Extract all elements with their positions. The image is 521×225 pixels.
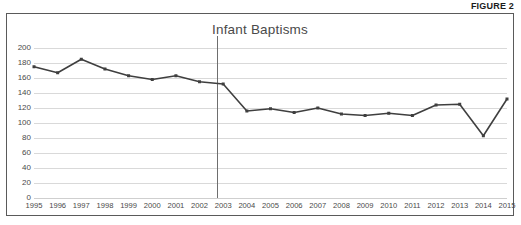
- data-point: [56, 71, 59, 74]
- series-path: [34, 59, 507, 136]
- data-point: [127, 74, 130, 77]
- y-axis-tick-label: 60: [7, 149, 31, 157]
- data-point: [174, 74, 177, 77]
- data-point: [458, 103, 461, 106]
- data-point: [245, 110, 248, 113]
- y-axis-tick-label: 180: [7, 59, 31, 67]
- y-axis-tick-label: 20: [7, 179, 31, 187]
- data-point: [222, 83, 225, 86]
- data-point: [33, 65, 36, 68]
- data-point: [435, 104, 438, 107]
- series-markers: [33, 58, 509, 138]
- data-point: [482, 134, 485, 137]
- y-axis-tick-label: 80: [7, 134, 31, 142]
- chart-frame: Infant Baptisms 020406080100120140160180…: [6, 13, 514, 216]
- data-point: [411, 114, 414, 117]
- data-point: [198, 80, 201, 83]
- y-axis-tick-label: 200: [7, 44, 31, 52]
- y-axis-tick-label: 100: [7, 119, 31, 127]
- data-point: [103, 68, 106, 71]
- data-point: [364, 114, 367, 117]
- chart-title: Infant Baptisms: [7, 22, 513, 37]
- data-point: [316, 107, 319, 110]
- series-line-chart: [34, 48, 507, 198]
- data-point: [293, 111, 296, 114]
- y-axis-tick-label: 160: [7, 74, 31, 82]
- data-point: [80, 58, 83, 61]
- figure-caption: FIGURE 2: [0, 0, 514, 12]
- x-axis: 1995199619971998199920002001200220032004…: [34, 200, 507, 214]
- data-point: [340, 113, 343, 116]
- figure-container: FIGURE 2 Infant Baptisms 020406080100120…: [0, 0, 521, 225]
- data-point: [387, 112, 390, 115]
- data-point: [269, 107, 272, 110]
- y-axis-tick-label: 40: [7, 164, 31, 172]
- data-point: [506, 98, 509, 101]
- gridline-0: [34, 198, 507, 199]
- y-axis: 020406080100120140160180200: [7, 48, 31, 198]
- y-axis-tick-label: 140: [7, 89, 31, 97]
- y-axis-tick-label: 120: [7, 104, 31, 112]
- data-point: [151, 78, 154, 81]
- x-axis-tick-label: 2015: [492, 200, 521, 212]
- plot-area: [34, 48, 507, 198]
